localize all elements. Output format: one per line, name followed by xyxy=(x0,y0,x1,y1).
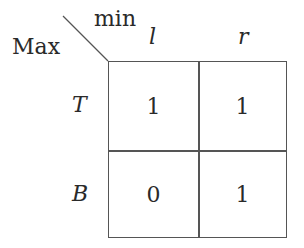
payoff-matrix: 1 1 0 1 xyxy=(108,61,287,238)
cell-t-l: 1 xyxy=(109,62,198,150)
col-player-label: min xyxy=(94,8,136,30)
cell-b-l: 0 xyxy=(109,150,198,238)
column-header-l: l xyxy=(149,26,156,48)
row-player-label: Max xyxy=(12,36,60,58)
column-header-r: r xyxy=(238,26,249,48)
cell-b-r: 1 xyxy=(198,150,287,238)
cell-t-r: 1 xyxy=(198,62,287,150)
row-header-t: T xyxy=(72,94,87,116)
row-header-b: B xyxy=(72,183,88,205)
